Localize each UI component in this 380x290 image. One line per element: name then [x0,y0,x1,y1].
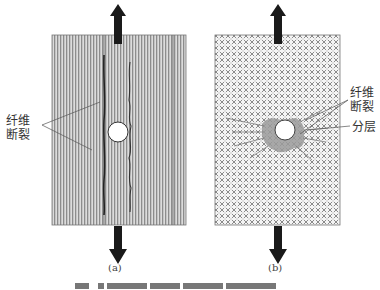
hole-b [275,120,295,140]
delamination-label: 分层 [352,120,376,134]
fiber-break-label-b: 纤维 断裂 [350,86,374,114]
figure-caption-cropped [75,283,310,290]
tension-arrow-down-a [109,226,127,264]
panel-b-label: (b) [268,262,282,273]
diagram-canvas [0,0,380,290]
fiber-break-label-a-line2: 断裂 [6,128,30,142]
fiber-break-label-a-line1: 纤维 [6,114,30,128]
hole-a [108,122,128,142]
fiber-crack-left [104,55,105,215]
panel-a-label: (a) [108,262,122,273]
fiber-break-label-a: 纤维 断裂 [6,114,30,142]
panel-a [42,4,186,264]
panel-b [215,4,350,264]
fiber-break-label-b-line1: 纤维 [350,86,374,100]
fiber-break-label-b-line2: 断裂 [350,100,374,114]
tension-arrow-down-b [269,226,287,264]
